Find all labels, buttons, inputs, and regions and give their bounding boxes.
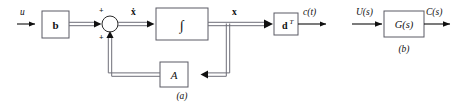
wire-b-to-sum — [69, 20, 102, 27]
signal-label-x: x — [232, 7, 237, 17]
signal-label-u: u — [20, 7, 25, 17]
summing-junction-sign-top: + — [99, 6, 104, 15]
block-Gs-label: G(s) — [395, 19, 414, 31]
signal-label-xdot: ẋ — [131, 7, 136, 17]
signal-label-ct: c(t) — [303, 7, 316, 18]
feedback-path-left — [106, 31, 160, 76]
block-diagram-svg: u b + + ẋ ∫ — [0, 0, 456, 104]
block-dT-label: d — [282, 20, 288, 31]
summing-junction — [102, 16, 118, 32]
wire-sum-to-integrator — [118, 20, 155, 27]
figure-root: u b + + ẋ ∫ — [0, 0, 456, 104]
signal-label-Cs: C(s) — [426, 7, 442, 18]
caption-panel-a: (a) — [176, 91, 187, 102]
summing-junction-sign-bottom: + — [99, 33, 104, 42]
caption-panel-b: (b) — [398, 44, 409, 55]
wire-integrator-to-dT — [208, 20, 273, 29]
block-b-label: b — [52, 19, 58, 31]
panel-a: u b + + ẋ ∫ — [17, 6, 326, 103]
block-A-label: A — [170, 69, 178, 81]
panel-b: U(s) G(s) C(s) (b) — [352, 7, 450, 55]
signal-label-Us: U(s) — [356, 7, 373, 18]
